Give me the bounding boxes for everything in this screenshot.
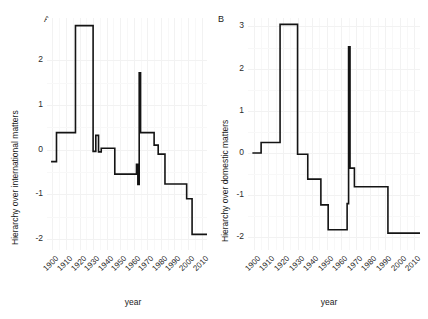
panel-b-x-axis-title: year xyxy=(254,297,404,307)
panel-b-svg xyxy=(248,18,420,250)
data-series-line xyxy=(51,26,207,235)
y-tick-label: 3 xyxy=(228,20,244,30)
y-tick-label: -1 xyxy=(228,189,244,199)
panel-a-y-axis-title: Hierarchy over international matters xyxy=(10,15,20,245)
y-tick-label: 0 xyxy=(27,144,43,154)
y-tick-label: 1 xyxy=(228,105,244,115)
y-tick-label: -1 xyxy=(27,188,43,198)
data-series-line xyxy=(252,24,420,233)
y-tick-label: 2 xyxy=(228,63,244,73)
panel-b-y-axis-title: Hierarchy over domestic matters xyxy=(220,12,230,242)
panel-a-plot-area xyxy=(47,18,207,250)
panel-a: A Hierarchy over international matters y… xyxy=(0,0,214,319)
y-tick-label: 1 xyxy=(27,99,43,109)
y-tick-label: 0 xyxy=(228,147,244,157)
y-tick-label: -2 xyxy=(228,231,244,241)
y-tick-label: 2 xyxy=(27,54,43,64)
figure-two-panel-line-charts: A Hierarchy over international matters y… xyxy=(0,0,428,319)
panel-a-svg xyxy=(47,18,207,250)
panel-b-plot-area xyxy=(248,18,420,250)
panel-a-x-axis-title: year xyxy=(58,297,208,307)
panel-b: B Hierarchy over domestic matters year -… xyxy=(214,0,428,319)
y-tick-label: -2 xyxy=(27,233,43,243)
